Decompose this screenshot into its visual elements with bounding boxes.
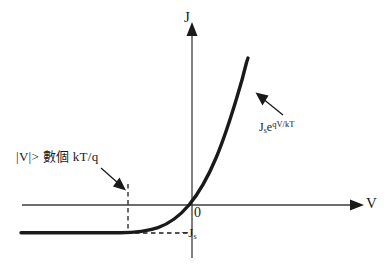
arrow-right-icon: [350, 200, 364, 211]
origin-label: 0: [194, 206, 201, 220]
y-axis-label: J: [184, 10, 190, 25]
condition-pointer-line: [101, 168, 118, 183]
reverse-bias-condition-label: |V|> 數個 kT/q: [16, 150, 99, 163]
x-axis-label: V: [366, 196, 377, 211]
iv-curve: [21, 58, 248, 233]
saturation-current-label: −Js: [181, 226, 197, 241]
curve-equation-exponent: qV/kT: [272, 119, 294, 129]
curve-equation-pointer-arrowhead: [256, 93, 269, 106]
saturation-subscript: s: [193, 232, 196, 241]
figure-canvas: J V 0 JseqV/kT −Js |V|> 數個 kT/q: [0, 0, 388, 269]
curve-equation-label: JseqV/kT: [259, 120, 294, 135]
